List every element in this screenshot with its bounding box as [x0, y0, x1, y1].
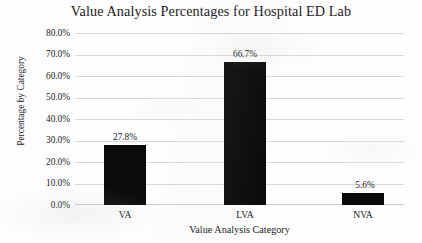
- y-tick-label: 60.0%: [30, 72, 70, 81]
- x-axis-title: Value Analysis Category: [75, 224, 404, 236]
- bar-nva[interactable]: [342, 193, 384, 205]
- bar-value-label-nva: 5.6%: [330, 181, 400, 190]
- y-tick-label: 80.0%: [30, 29, 70, 38]
- bar-value-label-lva: 66.7%: [210, 50, 280, 59]
- y-tick-label: 70.0%: [30, 50, 70, 59]
- gridline: [75, 33, 404, 34]
- y-axis-title: Percentage by Category: [16, 36, 26, 166]
- y-tick-label: 50.0%: [30, 93, 70, 102]
- y-tick-label: 20.0%: [30, 158, 70, 167]
- y-tick-label: 10.0%: [30, 179, 70, 188]
- x-tick-label-lva: LVA: [205, 209, 285, 220]
- bar-chart: Value Analysis Percentages for Hospital …: [0, 0, 422, 243]
- y-tick-label: 40.0%: [30, 115, 70, 124]
- plot-area: 27.8% 66.7% 5.6%: [75, 33, 404, 205]
- x-tick-label-va: VA: [85, 209, 165, 220]
- y-tick-label: 30.0%: [30, 136, 70, 145]
- x-tick-label-nva: NVA: [323, 209, 403, 220]
- bar-value-label-va: 27.8%: [90, 133, 160, 142]
- y-tick-label: 0.0%: [30, 201, 70, 210]
- bar-va[interactable]: [104, 145, 146, 205]
- bar-lva[interactable]: [224, 62, 266, 205]
